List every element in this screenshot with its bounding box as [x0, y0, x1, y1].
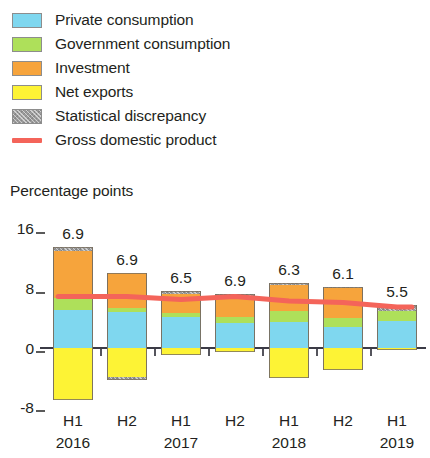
bar-value-label: 6.1: [315, 265, 371, 283]
x-axis-period-label: H1: [154, 412, 208, 430]
bar-value-label: 6.9: [45, 225, 101, 243]
bar-value-label: 6.9: [207, 272, 263, 290]
legend-swatch-icon: [12, 61, 42, 76]
bar-group[interactable]: [215, 210, 255, 410]
bar-outline-bottom: [215, 348, 255, 352]
bar-value-label: 6.3: [261, 261, 317, 279]
legend-item-label: Gross domestic product: [55, 131, 216, 149]
legend-swatch-icon: [12, 85, 42, 100]
bar-value-label: 5.5: [369, 283, 425, 301]
bar-outline-top: [107, 273, 147, 348]
x-tick-mark: [154, 349, 156, 356]
legend-swatch-icon: [12, 37, 42, 52]
bar-outline-bottom: [269, 348, 309, 378]
legend-swatch-icon: [12, 13, 42, 28]
x-tick-mark: [100, 349, 102, 356]
bar-value-label: 6.5: [153, 269, 209, 287]
bar-value-label: 6.9: [99, 251, 155, 269]
x-axis-period-label: H1: [46, 412, 100, 430]
bar-group[interactable]: [269, 210, 309, 410]
legend-item-label: Net exports: [55, 83, 133, 101]
legend-item: Investment: [10, 56, 420, 80]
bar-outline-bottom: [161, 348, 201, 355]
x-axis-labels: H12016H2H12017H2H12018H2H12019: [0, 412, 430, 458]
bar-outline-bottom: [323, 348, 363, 370]
x-axis-year-label: 2019: [370, 434, 424, 452]
x-axis-year-label: 2016: [46, 434, 100, 452]
bar-outline-bottom: [107, 348, 147, 380]
bar-outline-top: [323, 287, 363, 348]
chart-legend: Private consumption Government consumpti…: [10, 8, 420, 152]
legend-item: Net exports: [10, 80, 420, 104]
x-axis-period-label: H1: [262, 412, 316, 430]
x-tick-mark: [370, 349, 372, 356]
bar-outline-top: [269, 283, 309, 348]
legend-swatch-icon: [12, 109, 42, 124]
bar-group[interactable]: [161, 210, 201, 410]
x-axis-year-label: 2018: [262, 434, 316, 452]
bar-group[interactable]: [377, 210, 417, 410]
x-axis-year-label: 2017: [154, 434, 208, 452]
y-axis-title: Percentage points: [10, 182, 133, 200]
legend-item-label: Statistical discrepancy: [55, 107, 206, 125]
x-axis-period-label: H2: [316, 412, 370, 430]
legend-line-icon: [12, 133, 42, 148]
x-axis-period-label: H2: [100, 412, 154, 430]
legend-item: Statistical discrepancy: [10, 104, 420, 128]
bar-group[interactable]: [323, 210, 363, 410]
bar-outline-top: [53, 247, 93, 348]
bar-outline-top: [377, 305, 417, 348]
x-axis-period-label: H1: [370, 412, 424, 430]
legend-item: Government consumption: [10, 32, 420, 56]
bar-outline-bottom: [377, 348, 417, 350]
bar-group[interactable]: [107, 210, 147, 410]
chart-plot-area: 16 8 0 -8 6.96.96.56.96.36.15.5: [0, 210, 430, 410]
x-tick-mark: [262, 349, 264, 356]
legend-item-label: Investment: [55, 59, 130, 77]
x-tick-mark: [316, 349, 318, 356]
legend-item-label: Government consumption: [55, 35, 230, 53]
bar-outline-bottom: [53, 348, 93, 400]
legend-item: Gross domestic product: [10, 128, 420, 152]
legend-item-label: Private consumption: [55, 11, 194, 29]
bar-outline-top: [215, 294, 255, 348]
bar-outline-top: [161, 291, 201, 348]
x-tick-mark: [208, 349, 210, 356]
x-axis-period-label: H2: [208, 412, 262, 430]
legend-item: Private consumption: [10, 8, 420, 32]
